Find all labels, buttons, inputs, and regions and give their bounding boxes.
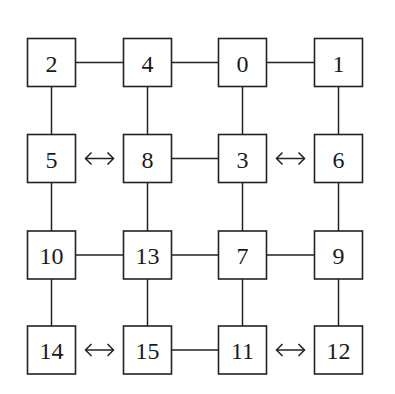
node-3: 3 [219,135,267,183]
node-11: 11 [219,326,267,374]
node-13: 13 [124,231,172,279]
node-label: 0 [237,51,249,77]
node-label: 13 [136,243,160,269]
edge-double-arrow-3-6 [277,153,305,165]
node-label: 7 [237,243,249,269]
node-label: 14 [40,338,64,364]
grid-diagram: 2401583610137914151112 [0,0,395,394]
node-label: 4 [142,51,154,77]
node-2: 2 [28,39,76,87]
node-label: 1 [333,51,345,77]
node-6: 6 [315,135,363,183]
nodes-layer: 2401583610137914151112 [28,39,363,375]
node-5: 5 [28,135,76,183]
node-label: 8 [142,147,154,173]
node-label: 5 [46,147,58,173]
node-label: 11 [231,338,254,364]
edge-double-arrow-14-15 [86,344,114,356]
edge-double-arrow-5-8 [86,153,114,165]
node-4: 4 [124,39,172,87]
edge-double-arrow-11-12 [277,344,305,356]
node-15: 15 [124,326,172,374]
node-label: 10 [40,243,64,269]
node-label: 2 [46,51,58,77]
node-7: 7 [219,231,267,279]
node-0: 0 [219,39,267,87]
node-14: 14 [28,326,76,374]
node-12: 12 [315,326,363,374]
node-label: 12 [327,338,351,364]
node-9: 9 [315,231,363,279]
node-label: 15 [136,338,160,364]
node-label: 3 [237,147,249,173]
node-label: 6 [333,147,345,173]
node-label: 9 [333,243,345,269]
edges-layer [52,63,339,357]
node-10: 10 [28,231,76,279]
node-1: 1 [315,39,363,87]
node-8: 8 [124,135,172,183]
